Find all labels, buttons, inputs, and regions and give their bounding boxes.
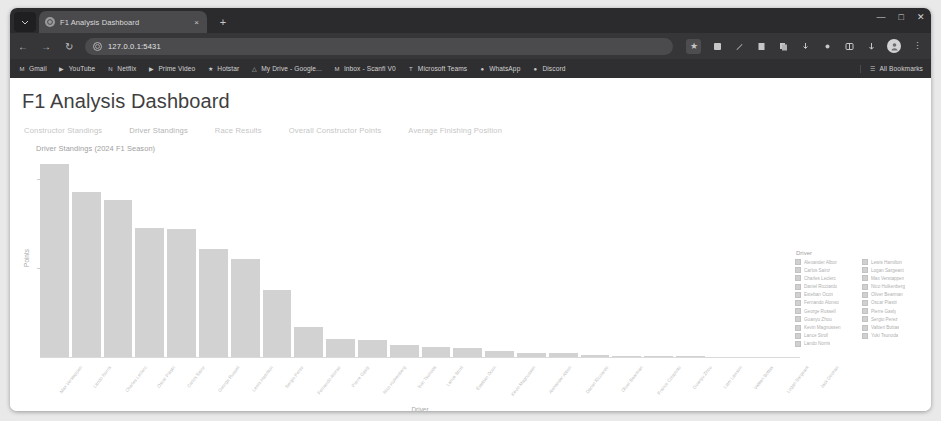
tab-overall-constructor-points[interactable]: Overall Constructor Points [289,126,382,138]
bar[interactable] [167,229,196,358]
legend-item[interactable]: Pierre Gasly [862,308,923,314]
tab-constructor-standings[interactable]: Constructor Standings [24,126,102,138]
mail-icon: M [333,65,341,73]
legend-item[interactable]: Nico Hulkenberg [862,284,923,290]
legend-item[interactable]: Oscar Piastri [862,300,923,306]
bar[interactable] [294,327,323,358]
bar[interactable] [263,290,292,358]
tab-average-finishing-position[interactable]: Average Finishing Position [408,126,502,138]
bar[interactable] [326,339,355,358]
prime-video-icon: ▶ [147,65,155,73]
screencast-icon[interactable] [821,40,833,52]
legend-item[interactable]: Guanyu Zhou [795,316,856,322]
window-close-icon[interactable]: ✕ [917,12,925,22]
chrome-menu-icon[interactable]: ⋮ [911,40,923,52]
new-tab-button[interactable]: + [215,14,231,30]
address-bar-url: 127.0.0.1:5431 [108,42,161,51]
reload-icon[interactable]: ↻ [62,39,76,53]
avatar[interactable] [887,39,901,53]
sidebar-toggle-icon[interactable] [865,40,877,52]
bookmark-netflix[interactable]: N Netflix [106,65,136,73]
browser-window: F1 Analysis Dashboard × + — □ ✕ ← → ↻ 12… [10,8,931,411]
legend-label: Yuki Tsunoda [871,333,898,338]
legend-item[interactable]: Lando Norris [795,341,856,347]
legend-item[interactable]: Alexander Albon [795,259,856,265]
legend-label: Lewis Hamilton [871,260,902,265]
legend-label: Kevin Magnussen [804,325,841,330]
site-info-icon[interactable] [93,42,102,51]
legend-item[interactable]: Max Verstappen [862,275,923,281]
bar[interactable] [104,200,133,358]
bar[interactable] [390,345,419,358]
tab-driver-standings[interactable]: Driver Standings [129,126,188,138]
all-bookmarks-button[interactable]: ☰ All Bookmarks [860,65,923,73]
bar[interactable] [358,340,387,358]
split-view-icon[interactable] [843,40,855,52]
legend-item[interactable]: Carlos Sainz [795,267,856,273]
legend-label: Logan Sargeant [871,268,904,273]
pen-icon[interactable] [733,40,745,52]
x-axis-line [40,357,800,358]
bookmark-hotstar[interactable]: ★ Hotstar [206,65,239,73]
legend-item[interactable]: Valtteri Bottas [862,325,923,331]
legend-swatch [862,259,868,265]
legend-item[interactable]: Charles Leclerc [795,275,856,281]
legend-swatch [862,300,868,306]
legend-item[interactable]: Fernando Alonso [795,300,856,306]
downloads-icon[interactable] [799,40,811,52]
browser-toolbar: ← → ↻ 127.0.0.1:5431 ★ [10,33,931,59]
bookmark-whatsapp[interactable]: ● WhatsApp [478,65,520,73]
bookmark-gmail[interactable]: M Gmail [18,65,47,73]
bar[interactable] [135,228,164,358]
whatsapp-icon: ● [478,65,486,73]
legend-label: Pierre Gasly [871,309,896,314]
legend-swatch [795,325,801,331]
bookmarks-bar: M Gmail ▶ YouTube N Netflix ▶ Prime Vide… [10,59,931,78]
bookmark-inbox[interactable]: M Inbox - Scanfi V0 [333,65,396,73]
bar-slot [581,158,610,358]
bar[interactable] [199,249,228,358]
minimize-icon[interactable]: — [877,12,886,22]
bar[interactable] [72,192,101,358]
legend-item[interactable]: Daniel Ricciardo [795,284,856,290]
legend-item[interactable]: Lewis Hamilton [862,259,923,265]
back-icon[interactable]: ← [16,39,30,53]
tab-search-icon[interactable] [14,12,36,32]
bookmark-youtube[interactable]: ▶ YouTube [58,65,96,73]
legend-swatch [862,325,868,331]
maximize-icon[interactable]: □ [899,12,904,22]
legend-item[interactable]: Yuki Tsunoda [862,333,923,339]
legend-swatch [795,267,801,273]
legend-label: Carlos Sainz [804,268,830,273]
bar[interactable] [40,164,69,358]
hotstar-icon: ★ [206,65,214,73]
bookmark-prime-video[interactable]: ▶ Prime Video [147,65,195,73]
forward-icon[interactable]: → [39,39,53,53]
legend-item[interactable]: Oliver Bearman [862,292,923,298]
legend-item[interactable]: Sergio Perez [862,316,923,322]
bookmark-microsoft-teams[interactable]: T Microsoft Teams [407,65,467,73]
legend-item[interactable]: George Russell [795,308,856,314]
bookmark-discord[interactable]: ● Discord [531,65,565,73]
browser-tab-f1-analysis-dashboard[interactable]: F1 Analysis Dashboard × [39,11,207,33]
tab-race-results[interactable]: Race Results [215,126,262,138]
extension-puzzle-icon[interactable] [711,40,723,52]
legend-item[interactable]: Esteban Ocon [795,292,856,298]
bar[interactable] [231,259,260,358]
legend-item[interactable]: Logan Sargeant [862,267,923,273]
page-title: F1 Analysis Dashboard [22,90,230,113]
bookmark-my-drive[interactable]: △ My Drive - Google... [250,65,322,73]
legend-item[interactable]: Lance Stroll [795,333,856,339]
legend-item[interactable]: Kevin Magnussen [795,325,856,331]
address-bar[interactable]: 127.0.0.1:5431 [85,38,673,55]
bar-slot [294,158,323,358]
copy-icon[interactable] [777,40,789,52]
plot-area: Points [40,158,800,358]
discord-icon: ● [531,65,539,73]
legend-label: Nico Hulkenberg [871,284,905,289]
bookmark-star-icon[interactable]: ★ [686,39,701,54]
browser-tab-strip: F1 Analysis Dashboard × + — □ ✕ [10,8,931,33]
close-icon[interactable]: × [192,18,201,27]
google-drive-icon: △ [250,65,258,73]
reading-list-icon[interactable] [755,40,767,52]
